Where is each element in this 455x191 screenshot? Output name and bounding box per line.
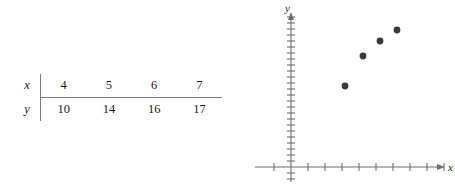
scatter-plot: y x [250, 0, 455, 191]
data-point [342, 83, 349, 90]
cell-x-1: 5 [86, 74, 131, 98]
cell-y-1: 14 [86, 98, 131, 122]
table-grid: x 4 5 6 7 y 10 14 16 17 [14, 74, 222, 121]
y-axis-label: y [284, 2, 290, 14]
cell-y-3: 17 [177, 98, 222, 122]
cell-y-2: 16 [132, 98, 177, 122]
figure-root: x 4 5 6 7 y 10 14 16 17 y [0, 0, 455, 191]
y-axis-group: y [284, 2, 295, 182]
table-row: y 10 14 16 17 [14, 98, 222, 122]
cell-x-2: 6 [132, 74, 177, 98]
x-axis-label: x [447, 161, 453, 173]
data-point [360, 53, 367, 60]
data-point [377, 38, 384, 45]
xy-data-table: x 4 5 6 7 y 10 14 16 17 [14, 74, 222, 120]
data-points [342, 27, 401, 90]
x-axis-group: x [255, 161, 453, 173]
data-point [394, 27, 401, 34]
cell-y-0: 10 [41, 98, 87, 122]
cell-x-0: 4 [41, 74, 87, 98]
cell-x-3: 7 [177, 74, 222, 98]
table-row: x 4 5 6 7 [14, 74, 222, 98]
row-label-y: y [14, 98, 41, 122]
row-label-x: x [14, 74, 41, 98]
